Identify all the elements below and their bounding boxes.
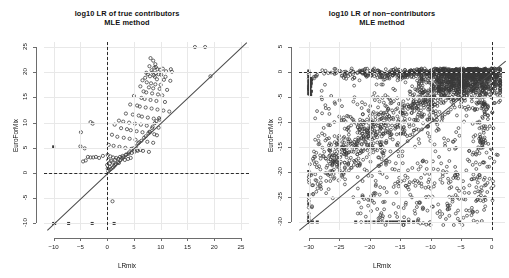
- x-axis-tick-label: 10: [151, 243, 171, 250]
- y-axis-line: [36, 47, 37, 223]
- x-axis-tick-label: 0: [482, 243, 502, 250]
- x-axis-tick: [80, 238, 81, 241]
- x-axis-tick-label: −25: [329, 243, 349, 250]
- x-axis-tick-label: 5: [124, 243, 144, 250]
- y-axis-tick: [33, 148, 36, 149]
- y-axis-tick-label: 20: [21, 64, 28, 80]
- grid-line-horizontal: [299, 172, 505, 173]
- grid-line-vertical: [80, 42, 81, 230]
- grid-line-vertical: [187, 42, 188, 230]
- grid-line-vertical: [339, 42, 340, 230]
- y-axis-tick-label: -5: [21, 190, 28, 206]
- x-axis-tick-label: −10: [44, 243, 64, 250]
- y-axis-tick-label: 15: [21, 89, 28, 105]
- y-axis-tick-label: -25: [276, 189, 283, 205]
- grid-line-vertical: [54, 42, 55, 230]
- panel-non-contributors: log10 LR of non−contributors MLE method …: [255, 0, 509, 278]
- y-axis-tick-label: -30: [276, 214, 283, 230]
- panel-true-contributors: log10 LR of true contributors MLE method…: [0, 0, 254, 278]
- x-axis-tick-label: −20: [360, 243, 380, 250]
- x-axis-tick-label: −10: [421, 243, 441, 250]
- x-axis-title: LRmix: [0, 262, 254, 269]
- x-axis-tick: [400, 238, 401, 241]
- scatter-canvas-non-contributors: [255, 0, 509, 278]
- grid-line-horizontal: [299, 47, 505, 48]
- y-axis-tick: [33, 173, 36, 174]
- x-axis-tick: [187, 238, 188, 241]
- x-axis-tick-label: −5: [70, 243, 90, 250]
- figure-root: log10 LR of true contributors MLE method…: [0, 0, 509, 278]
- y-axis-line: [291, 47, 292, 222]
- x-axis-tick: [107, 238, 108, 241]
- y-axis-tick-label: 5: [21, 139, 28, 155]
- y-axis-title: EuroForMix: [267, 106, 274, 166]
- x-axis-tick-label: 25: [231, 243, 251, 250]
- y-axis-tick-label: 5: [276, 39, 283, 55]
- x-axis-tick: [339, 238, 340, 241]
- grid-line-vertical: [241, 42, 242, 230]
- y-axis-tick: [288, 172, 291, 173]
- grid-line-horizontal: [44, 223, 249, 224]
- grid-line-vertical: [400, 42, 401, 230]
- x-axis-tick-label: 15: [177, 243, 197, 250]
- zero-reference-line-horizontal: [299, 72, 505, 73]
- grid-line-horizontal: [44, 148, 249, 149]
- grid-line-horizontal: [44, 97, 249, 98]
- y-axis-tick: [33, 72, 36, 73]
- y-axis-tick: [33, 198, 36, 199]
- x-axis-tick: [134, 238, 135, 241]
- x-axis-tick-label: 0: [97, 243, 117, 250]
- x-axis-tick: [431, 238, 432, 241]
- y-axis-tick: [288, 47, 291, 48]
- y-axis-tick: [288, 147, 291, 148]
- y-axis-tick: [288, 97, 291, 98]
- scatter-canvas-true-contributors: [0, 0, 254, 278]
- x-axis-tick: [54, 238, 55, 241]
- x-axis-tick-label: −5: [451, 243, 471, 250]
- grid-line-vertical: [309, 42, 310, 230]
- grid-line-horizontal: [299, 222, 505, 223]
- y-axis-tick: [288, 222, 291, 223]
- y-axis-tick: [288, 72, 291, 73]
- grid-line-horizontal: [299, 197, 505, 198]
- y-axis-tick-label: 0: [276, 64, 283, 80]
- y-axis-tick-label: -20: [276, 164, 283, 180]
- y-axis-tick-label: -15: [276, 139, 283, 155]
- x-axis-line: [54, 238, 241, 239]
- grid-line-vertical: [461, 42, 462, 230]
- grid-line-vertical: [431, 42, 432, 230]
- grid-line-vertical: [370, 42, 371, 230]
- y-axis-tick-label: 25: [21, 39, 28, 55]
- x-axis-tick: [214, 238, 215, 241]
- grid-line-horizontal: [299, 97, 505, 98]
- y-axis-tick: [33, 97, 36, 98]
- grid-line-horizontal: [299, 147, 505, 148]
- zero-reference-line-vertical: [492, 42, 493, 230]
- y-axis-tick-label: -10: [21, 215, 28, 231]
- y-axis-tick: [288, 122, 291, 123]
- y-axis-tick-label: -5: [276, 89, 283, 105]
- x-axis-tick: [241, 238, 242, 241]
- grid-line-vertical: [161, 42, 162, 230]
- zero-reference-line-horizontal: [44, 173, 249, 174]
- y-axis-tick-label: 10: [21, 114, 28, 130]
- y-axis-tick-label: 0: [21, 165, 28, 181]
- grid-line-horizontal: [44, 198, 249, 199]
- x-axis-tick-label: −30: [299, 243, 319, 250]
- grid-line-horizontal: [44, 123, 249, 124]
- y-axis-tick: [33, 223, 36, 224]
- x-axis-tick: [461, 238, 462, 241]
- x-axis-title: LRmix: [255, 262, 509, 269]
- grid-line-horizontal: [299, 122, 505, 123]
- y-axis-tick-label: -10: [276, 114, 283, 130]
- x-axis-tick: [161, 238, 162, 241]
- y-axis-tick: [288, 197, 291, 198]
- y-axis-title: EuroForMix: [12, 106, 19, 166]
- x-axis-tick: [492, 238, 493, 241]
- y-axis-tick: [33, 123, 36, 124]
- grid-line-horizontal: [44, 72, 249, 73]
- y-axis-tick: [33, 47, 36, 48]
- x-axis-tick-label: 20: [204, 243, 224, 250]
- x-axis-tick: [370, 238, 371, 241]
- x-axis-tick-label: −15: [390, 243, 410, 250]
